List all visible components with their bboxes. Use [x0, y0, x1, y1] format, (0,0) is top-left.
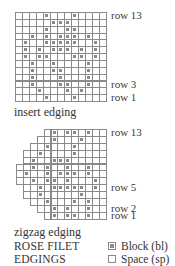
row-label: row 13: [111, 127, 142, 138]
zigzag-edging-caption: zigzag edging: [14, 226, 81, 238]
row-label: row 5: [111, 182, 136, 193]
page-title-line-2: EDGINGS: [14, 253, 66, 265]
row-label: row 1: [111, 92, 136, 103]
space-swatch-icon: [108, 255, 116, 263]
row-label: row 1: [111, 210, 136, 221]
legend-block: Block (bl): [108, 240, 168, 252]
space-cell: [99, 212, 107, 220]
space-cell: [99, 94, 107, 102]
page-title-line-1: ROSE FILET: [14, 240, 80, 252]
insert-edging-caption: insert edging: [14, 106, 76, 118]
legend-space: Space (sp): [108, 253, 169, 265]
row-label: row 3: [111, 79, 136, 90]
row-label: row 13: [111, 10, 142, 21]
block-swatch-icon: [108, 242, 116, 250]
legend-space-label: Space (sp): [121, 253, 169, 265]
legend-block-label: Block (bl): [121, 240, 168, 252]
